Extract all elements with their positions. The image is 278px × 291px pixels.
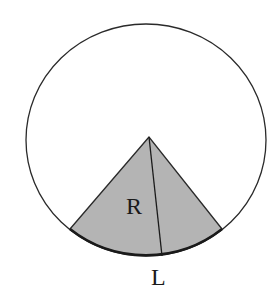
arc-length-label: L (151, 264, 166, 290)
circle-sector-diagram: R L (0, 0, 278, 291)
shaded-sector (70, 137, 222, 255)
radius-label: R (126, 193, 142, 219)
